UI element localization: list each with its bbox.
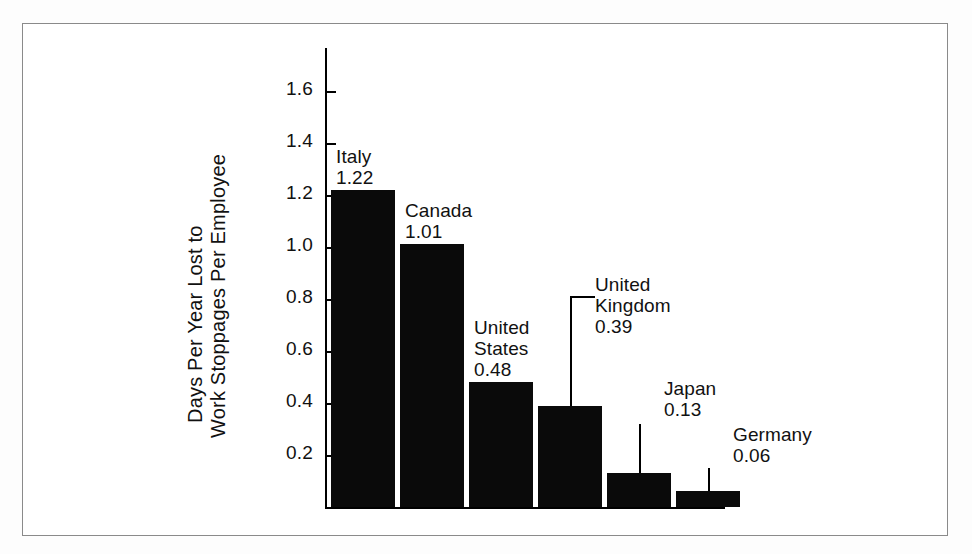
leader-line-united-kingdom-horizontal xyxy=(570,296,595,298)
bar-germany xyxy=(676,491,740,507)
callout-canada: Canada 1.01 xyxy=(405,200,472,242)
y-tick-label: 0.6 xyxy=(257,338,313,360)
tick-mark xyxy=(327,143,336,145)
bar-canada xyxy=(400,244,464,507)
callout-italy: Italy 1.22 xyxy=(336,146,373,188)
y-tick-label: 0.8 xyxy=(257,286,313,308)
y-axis-title-line-1: Days Per Year Lost to xyxy=(184,225,207,423)
y-axis-line xyxy=(325,48,327,509)
callout-japan: Japan 0.13 xyxy=(664,378,716,420)
plot-area: Days Per Year Lost to Work Stoppages Per… xyxy=(0,0,972,554)
leader-line-united-kingdom-vertical xyxy=(570,296,572,406)
y-tick-label: 1.2 xyxy=(257,182,313,204)
bar-italy xyxy=(331,190,395,507)
tick-mark xyxy=(327,91,336,93)
bar-united-kingdom xyxy=(538,406,602,507)
y-tick-label: 1.6 xyxy=(257,78,313,100)
leader-line-japan xyxy=(639,424,641,473)
y-tick-label: 1.0 xyxy=(257,234,313,256)
y-tick-label: 0.2 xyxy=(257,442,313,464)
bar-united-states xyxy=(469,382,533,507)
bar-japan xyxy=(607,473,671,507)
y-tick-label: 1.4 xyxy=(257,130,313,152)
chart-figure: Days Per Year Lost to Work Stoppages Per… xyxy=(0,0,972,554)
y-tick-label: 0.4 xyxy=(257,390,313,412)
callout-united-states: United States 0.48 xyxy=(474,317,530,380)
callout-united-kingdom: United Kingdom 0.39 xyxy=(595,274,671,337)
leader-line-germany xyxy=(708,468,710,491)
y-axis-title-line-2: Work Stoppages Per Employee xyxy=(207,154,230,438)
callout-germany: Germany 0.06 xyxy=(733,424,812,466)
x-axis-baseline xyxy=(325,507,725,509)
